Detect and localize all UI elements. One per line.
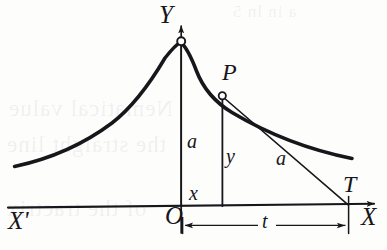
segment-a-tangent-label: a <box>276 148 286 168</box>
x-axis-positive-label: X <box>361 204 376 229</box>
figure-container: a in ln 5 Nematical value the straight l… <box>0 0 387 250</box>
diagram-canvas <box>0 0 387 250</box>
y-axis-label: Y <box>159 2 173 27</box>
x-axis-negative-label: X' <box>8 208 29 233</box>
point-t-label: T <box>343 172 356 196</box>
tractrix-right-branch <box>181 42 352 158</box>
point-p-label: P <box>222 60 237 84</box>
vertex-point-marker <box>177 37 185 45</box>
segment-t-label: t <box>262 211 268 231</box>
x-axis-line <box>8 204 374 208</box>
segment-y-label: y <box>226 146 235 166</box>
origin-label: O <box>165 203 183 228</box>
segment-x-label: x <box>189 183 198 203</box>
segment-a-vertical-label: a <box>187 131 197 151</box>
tractrix-left-branch <box>15 42 181 166</box>
point-p-marker <box>219 92 226 99</box>
